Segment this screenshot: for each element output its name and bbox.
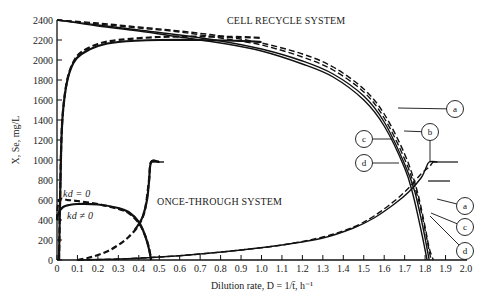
callout-leader <box>430 216 459 245</box>
series-line-2 <box>57 20 429 260</box>
data-series <box>57 20 437 260</box>
x-tick-label: 1.8 <box>419 263 432 274</box>
x-tick-label: 1.7 <box>398 263 411 274</box>
annotation-kd-zero: kd = 0 <box>63 188 90 199</box>
x-tick-label: 1.5 <box>358 263 371 274</box>
callout-leader <box>437 199 457 204</box>
callout-label: c <box>463 222 467 232</box>
series-line-1 <box>57 20 431 260</box>
y-tick-label: 1200 <box>33 135 53 146</box>
x-tick-label: 1.1 <box>276 263 289 274</box>
x-tick-label: 0.8 <box>214 263 227 274</box>
x-tick-label: 0 <box>55 263 60 274</box>
x-tick-label: 2.0 <box>460 263 473 274</box>
x-tick-label: 0.6 <box>173 263 186 274</box>
series-line-4 <box>59 36 262 260</box>
x-tick-label: 1.3 <box>317 263 330 274</box>
y-ticks: 0200400600800100012001400160018002000220… <box>33 15 62 266</box>
callout-leader <box>431 213 457 224</box>
x-tick-label: 1.6 <box>378 263 391 274</box>
x-tick-label: 0.3 <box>112 263 125 274</box>
annotation-once-through: ONCE-THROUGH SYSTEM <box>157 196 282 207</box>
y-tick-label: 800 <box>38 175 53 186</box>
annotation-kd-nonzero: kd ≠ 0 <box>67 210 93 221</box>
annotation-cell-recycle: CELL RECYCLE SYSTEM <box>227 15 345 26</box>
callout-label: a <box>463 201 467 211</box>
x-axis-title: Dilution rate, D = 1/t̄, h⁻¹ <box>211 280 313 291</box>
x-tick-label: 1.9 <box>439 263 452 274</box>
y-tick-label: 1000 <box>33 155 53 166</box>
y-tick-label: 1800 <box>33 75 53 86</box>
callout-label: a <box>453 104 457 114</box>
callout-label: d <box>463 246 468 256</box>
y-tick-label: 2000 <box>33 55 53 66</box>
callout-leader <box>398 108 447 109</box>
callout-label: d <box>362 158 367 168</box>
series-line-7 <box>78 161 438 260</box>
y-tick-label: 1400 <box>33 115 53 126</box>
y-tick-label: 200 <box>38 235 53 246</box>
series-line-5 <box>59 40 262 260</box>
y-tick-label: 400 <box>38 215 53 226</box>
y-tick-label: 2400 <box>33 15 53 26</box>
y-tick-label: 0 <box>48 255 53 266</box>
y-tick-label: 600 <box>38 195 53 206</box>
x-tick-label: 0.1 <box>71 263 84 274</box>
callout-label: c <box>362 134 366 144</box>
x-tick-label: 0.9 <box>235 263 248 274</box>
x-tick-label: 0.4 <box>133 263 146 274</box>
x-tick-label: 0.2 <box>92 263 105 274</box>
callout-leader <box>404 131 422 132</box>
x-tick-label: 0.5 <box>153 263 166 274</box>
chart: 0200400600800100012001400160018002000220… <box>0 0 486 302</box>
series-line-6 <box>78 162 438 260</box>
x-tick-label: 1.2 <box>296 263 309 274</box>
x-tick-label: 0.7 <box>194 263 207 274</box>
x-ticks: 00.10.20.30.40.50.60.70.80.91.01.11.21.3… <box>55 255 473 274</box>
x-tick-label: 1.4 <box>337 263 350 274</box>
axes: 0200400600800100012001400160018002000220… <box>33 15 472 275</box>
x-tick-label: 1.0 <box>255 263 268 274</box>
series-line-11 <box>135 161 160 230</box>
y-tick-label: 2200 <box>33 35 53 46</box>
callout-label: b <box>428 127 433 137</box>
y-axis-title: X, Se, mg/L <box>10 116 21 165</box>
y-tick-label: 1600 <box>33 95 53 106</box>
series-line-0 <box>57 20 433 260</box>
